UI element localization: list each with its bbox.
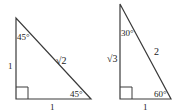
bottom-angle-label-2: 60°	[154, 89, 167, 99]
top-angle-label-1: 45°	[17, 32, 30, 42]
special-right-triangles-diagram: 45° √2 1 45° 1 30° 2 √3 60° 1	[0, 0, 180, 112]
triangle-2-outline	[120, 4, 171, 99]
vertical-leg-label-1: 1	[8, 61, 13, 71]
right-angle-marker-1	[16, 87, 28, 99]
top-angle-label-2: 30°	[121, 28, 134, 38]
vertical-leg-label-2: √3	[107, 53, 118, 64]
base-label-1: 1	[50, 102, 55, 112]
bottom-angle-label-1: 45°	[70, 89, 83, 99]
right-angle-marker-2	[120, 87, 132, 99]
base-label-2: 1	[143, 102, 148, 112]
triangle-45-45-90: 45° √2 1 45° 1	[8, 18, 91, 112]
triangle-30-60-90: 30° 2 √3 60° 1	[107, 4, 171, 112]
hypotenuse-label-2: 2	[154, 46, 159, 57]
hypotenuse-label-1: √2	[56, 55, 67, 66]
